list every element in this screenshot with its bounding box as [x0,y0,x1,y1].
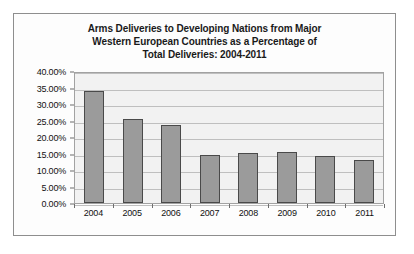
bar-slot [345,73,384,203]
bar-slot [191,73,230,203]
bar-slot [152,73,191,203]
chart-figure: Arms Deliveries to Developing Nations fr… [13,13,396,236]
bar-2008 [238,153,258,203]
y-tick-label: 35.00% [37,84,66,94]
bar-2011 [354,160,374,203]
x-tick-label-2009: 2009 [268,208,307,218]
y-axis: 0.00%5.00%10.00%15.00%20.00%25.00%30.00%… [14,72,70,204]
x-tick-label-2006: 2006 [152,208,191,218]
bar-2006 [161,125,181,203]
bar-2009 [277,152,297,203]
bar-series [75,73,383,203]
x-tick-label-2010: 2010 [307,208,346,218]
x-tick-label-2005: 2005 [113,208,152,218]
bar-2010 [315,156,335,203]
x-tick-label-2004: 2004 [74,208,113,218]
bar-2005 [123,119,143,203]
bar-slot [114,73,153,203]
y-tick-label: 10.00% [37,166,66,176]
chart-title-line-1: Arms Deliveries to Developing Nations fr… [14,22,395,35]
y-tick-label: 40.00% [37,67,66,77]
chart-title: Arms Deliveries to Developing Nations fr… [14,22,395,61]
bar-2007 [200,155,220,204]
x-tick-label-2008: 2008 [229,208,268,218]
x-axis: 20042005200620072008200920102011 [74,208,384,218]
bar-slot [229,73,268,203]
x-tick-label-2007: 2007 [190,208,229,218]
plot-area [74,72,384,204]
bar-slot [268,73,307,203]
y-tick-label: 15.00% [37,150,66,160]
bar-2004 [84,91,104,203]
y-tick-label: 5.00% [41,183,66,193]
y-tick-label: 0.00% [41,199,66,209]
x-tick-label-2011: 2011 [345,208,384,218]
chart-title-line-3: Total Deliveries: 2004-2011 [14,48,395,61]
x-tick-mark [384,204,385,208]
y-tick-label: 25.00% [37,117,66,127]
chart-title-line-2: Western European Countries as a Percenta… [14,35,395,48]
bar-slot [306,73,345,203]
y-tick-label: 30.00% [37,100,66,110]
bar-slot [75,73,114,203]
y-tick-label: 20.00% [37,133,66,143]
